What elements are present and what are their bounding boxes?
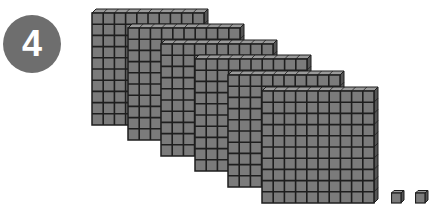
step-number-badge: 4 <box>3 15 61 73</box>
step-number: 4 <box>22 23 42 65</box>
unit-cube <box>391 190 405 207</box>
unit-cube <box>415 190 429 207</box>
hundreds-flat <box>262 87 379 204</box>
